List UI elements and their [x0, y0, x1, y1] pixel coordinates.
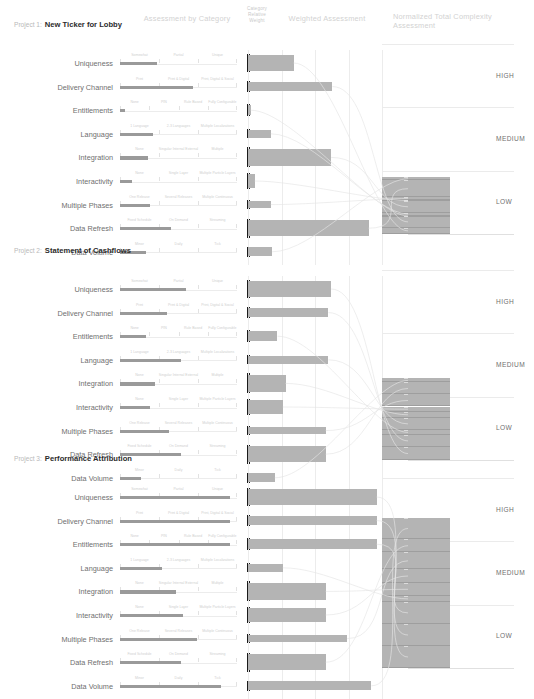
assessment-scale[interactable]: PrintPrint & DigitalPrint, Digital & Soc… [120, 74, 237, 100]
normalized-segment [382, 180, 450, 197]
band-label-medium: MEDIUM [496, 361, 525, 368]
assessment-scale[interactable]: 1 Language2-3 LanguagesMultiple Localiza… [120, 121, 237, 147]
assessment-scale[interactable]: PrintPrint & DigitalPrint, Digital & Soc… [120, 300, 237, 326]
assessment-scale[interactable]: NoneSingular Internal ExternalMultiple [120, 144, 237, 170]
category-score-bar [120, 109, 125, 112]
category-label: Entitlements [10, 332, 113, 341]
normalized-segment [382, 213, 450, 216]
weighted-assessment [248, 370, 382, 396]
normalized-segment-tick [404, 180, 408, 181]
assessment-scale[interactable]: 1 Language2-3 LanguagesMultiple Localiza… [120, 555, 237, 581]
scale-tick [198, 611, 199, 615]
scale-ticks: PrintPrint & DigitalPrint, Digital & Soc… [120, 78, 237, 86]
scale-tick [236, 285, 237, 289]
scale-tick-label: Fully Configurable [208, 534, 236, 538]
weighted-assessment [248, 192, 382, 218]
weighted-assessment-bar [248, 130, 271, 138]
assessment-scale[interactable]: NonePINRule BasedFully Configurable [120, 323, 237, 349]
category-label: Interactivity [10, 177, 113, 186]
scale-tick-label: Minor [135, 676, 144, 680]
category-score-bar [120, 156, 148, 159]
band-label-low: LOW [496, 424, 512, 431]
assessment-scale[interactable]: SomewhatPartialUnique [120, 484, 237, 510]
scale-tick [179, 106, 180, 110]
normalized-segment-tick [404, 382, 408, 383]
scale-tick [198, 309, 199, 313]
assessment-scale[interactable]: One ReleaseSeveral ReleasesMultiple Cont… [120, 418, 237, 444]
scale-tick [179, 332, 180, 336]
normalized-segment-tick [404, 583, 408, 584]
scale-tick-label: Multiple [211, 373, 223, 377]
normalized-segment-tick [404, 177, 408, 178]
scale-tick-label: On Demand [169, 652, 188, 656]
assessment-scale[interactable]: NoneSingular Internal ExternalMultiple [120, 370, 237, 396]
assessment-scale[interactable]: One ReleaseSeveral ReleasesMultiple Cont… [120, 192, 237, 218]
category-label: Multiple Phases [10, 635, 113, 644]
assessment-scale[interactable]: 1 Language2-3 LanguagesMultiple Localiza… [120, 347, 237, 373]
scale-tick-label: Rule Based [184, 326, 202, 330]
normalized-segment [382, 518, 450, 539]
normalized-total-column: HIGHMEDIUMLOW [382, 14, 534, 236]
assessment-scale[interactable]: SomewhatPartialUnique [120, 276, 237, 302]
category-label: Delivery Channel [10, 517, 113, 526]
normalized-segment-tick [404, 646, 408, 647]
band-divider [382, 478, 514, 479]
scale-tick-label: Multiple Localizations [201, 124, 234, 128]
scale-tick-label: None [135, 373, 143, 377]
scale-tick [198, 153, 199, 157]
assessment-scale[interactable]: NonePINRule BasedFully Configurable [120, 531, 237, 557]
category-score-bar [120, 312, 167, 315]
scale-tick-label: Multiple Continuous [202, 421, 233, 425]
category-score-bar [120, 520, 230, 523]
normalized-segment-tick [404, 602, 408, 603]
scale-tick-label: Partial [174, 53, 184, 57]
assessment-scale[interactable]: Fixed ScheduleOn DemandStreaming [120, 649, 237, 675]
scale-tick [198, 130, 199, 134]
assessment-scale[interactable]: SomewhatPartialUnique [120, 50, 237, 76]
scale-tick-label: Multiple Continuous [202, 629, 233, 633]
scale-tick-label: Streaming [210, 652, 226, 656]
scale-tick-label: Somewhat [131, 279, 148, 283]
assessment-scale[interactable]: NoneSingle LayerMultiple Particle Layers [120, 602, 237, 628]
category-label: Uniqueness [10, 285, 113, 294]
normalized-segment-tick [404, 539, 408, 540]
scale-tick [236, 635, 237, 639]
assessment-scale[interactable]: One ReleaseSeveral ReleasesMultiple Cont… [120, 626, 237, 652]
scale-tick [208, 106, 209, 110]
category-score-bar [120, 86, 193, 89]
assessment-scale[interactable]: NoneSingle LayerMultiple Particle Layers [120, 394, 237, 420]
normalized-segment [382, 201, 450, 212]
category-label: Data Refresh [10, 658, 113, 667]
assessment-scale[interactable]: Fixed ScheduleOn DemandStreaming [120, 215, 237, 241]
project-name: New Ticker for Lobby [42, 20, 122, 29]
band-label-medium: MEDIUM [496, 135, 525, 142]
scale-ticks: SomewhatPartialUnique [120, 280, 237, 288]
scale-tick-label: Multiple Localizations [201, 558, 234, 562]
scale-tick [198, 635, 199, 639]
weighted-assessment-bar [248, 331, 277, 341]
assessment-scale[interactable]: NoneSingular Internal ExternalMultiple [120, 578, 237, 604]
category-label: Integration [10, 587, 113, 596]
weighted-assessment-bar [248, 400, 283, 413]
assessment-scale[interactable]: MinorDailyTick [120, 673, 237, 699]
scale-tick [159, 59, 160, 63]
scale-tick-label: Partial [174, 487, 184, 491]
scale-tick-label: Somewhat [131, 53, 148, 57]
band-label-medium: MEDIUM [496, 569, 525, 576]
scale-tick [159, 153, 160, 157]
scale-tick [159, 201, 160, 205]
weighted-assessment-bar [248, 583, 326, 600]
weighted-assessment-bar [248, 281, 331, 297]
band-label-low: LOW [496, 198, 512, 205]
assessment-scale[interactable]: NonePINRule BasedFully Configurable [120, 97, 237, 123]
normalized-segment-tick [404, 596, 408, 597]
assessment-scale[interactable]: PrintPrint & DigitalPrint, Digital & Soc… [120, 508, 237, 534]
normalized-baseline [408, 668, 514, 669]
weighted-gridline [382, 673, 383, 699]
normalized-segment [382, 378, 450, 382]
weighted-assessment [248, 555, 382, 581]
scale-tick-label: Rule Based [184, 100, 202, 104]
assessment-scale[interactable]: NoneSingle LayerMultiple Particle Layers [120, 168, 237, 194]
normalized-segment [382, 177, 450, 180]
scale-tick [198, 224, 199, 228]
